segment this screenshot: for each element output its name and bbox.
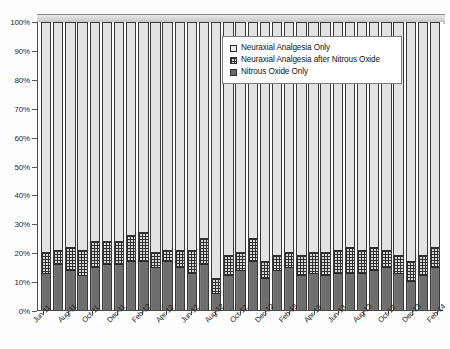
bar-segment bbox=[357, 250, 367, 273]
bar-segment bbox=[65, 247, 75, 270]
y-tick-label: 0% bbox=[19, 307, 30, 316]
legend-swatch-icon bbox=[230, 45, 237, 52]
bar-segment bbox=[175, 267, 185, 310]
legend-item[interactable]: Neuraxial Analgesia Only bbox=[230, 44, 395, 52]
bar-segment bbox=[175, 250, 185, 267]
bar-column[interactable] bbox=[211, 22, 221, 310]
bar-segment bbox=[272, 255, 282, 269]
bar-segment bbox=[223, 255, 233, 275]
bar-segment bbox=[320, 252, 330, 275]
y-tick-label: 70% bbox=[15, 104, 30, 113]
bar-segment bbox=[65, 22, 75, 247]
bar-segment bbox=[430, 22, 440, 247]
bar-segment bbox=[393, 273, 403, 310]
bar-segment bbox=[296, 275, 306, 310]
bar-column[interactable] bbox=[406, 22, 416, 310]
bar-segment bbox=[406, 261, 416, 281]
bar-column[interactable] bbox=[65, 22, 75, 310]
bar-segment bbox=[199, 264, 209, 310]
bar-segment bbox=[114, 241, 124, 264]
bar-column[interactable] bbox=[430, 22, 440, 310]
bar-segment bbox=[150, 252, 160, 266]
y-tick-label: 80% bbox=[15, 75, 30, 84]
bar-segment bbox=[333, 250, 343, 273]
bar-segment bbox=[77, 22, 87, 250]
bar-segment bbox=[53, 250, 63, 264]
bar-column[interactable] bbox=[126, 22, 136, 310]
bar-segment bbox=[138, 232, 148, 261]
bar-segment bbox=[199, 22, 209, 238]
bar-segment bbox=[260, 261, 270, 278]
bar-segment bbox=[138, 22, 148, 232]
bar-segment bbox=[150, 267, 160, 310]
bar-segment bbox=[418, 255, 428, 275]
bar-segment bbox=[126, 261, 136, 310]
bar-segment bbox=[418, 22, 428, 255]
legend-swatch-icon bbox=[230, 57, 237, 64]
bar-column[interactable] bbox=[77, 22, 87, 310]
bar-segment bbox=[393, 255, 403, 272]
bar-segment bbox=[41, 22, 51, 252]
bar-column[interactable] bbox=[114, 22, 124, 310]
bar-segment bbox=[320, 275, 330, 310]
bar-segment bbox=[114, 22, 124, 241]
y-tick-label: 40% bbox=[15, 191, 30, 200]
y-axis: 0%10%20%30%40%50%60%70%80%90%100% bbox=[0, 0, 37, 349]
bar-segment bbox=[369, 247, 379, 270]
bar-segment bbox=[345, 273, 355, 310]
legend-swatch-icon bbox=[230, 69, 237, 76]
bar-segment bbox=[162, 22, 172, 250]
bar-segment bbox=[77, 250, 87, 276]
bar-segment bbox=[248, 238, 258, 261]
bar-segment bbox=[430, 247, 440, 267]
bar-segment bbox=[175, 22, 185, 250]
bar-column[interactable] bbox=[199, 22, 209, 310]
bar-column[interactable] bbox=[150, 22, 160, 310]
bar-segment bbox=[150, 22, 160, 252]
bar-column[interactable] bbox=[162, 22, 172, 310]
bar-segment bbox=[308, 252, 318, 272]
legend-item[interactable]: Nitrous Oxide Only bbox=[230, 68, 395, 76]
bar-column[interactable] bbox=[53, 22, 63, 310]
bar-segment bbox=[199, 238, 209, 264]
bar-segment bbox=[77, 275, 87, 310]
bar-column[interactable] bbox=[102, 22, 112, 310]
stacked-bar-chart: 0%10%20%30%40%50%60%70%80%90%100% Jun-11… bbox=[0, 0, 450, 349]
bar-segment bbox=[369, 270, 379, 310]
bar-segment bbox=[381, 250, 391, 267]
y-tick-label: 90% bbox=[15, 46, 30, 55]
x-axis: Jun-11Aug-11Oct-11Dec-11Feb-12Apr-12Jun-… bbox=[37, 311, 443, 349]
bar-segment bbox=[235, 252, 245, 269]
bar-column[interactable] bbox=[418, 22, 428, 310]
bar-column[interactable] bbox=[138, 22, 148, 310]
y-tick-label: 50% bbox=[15, 162, 30, 171]
bar-segment bbox=[41, 252, 51, 272]
chart-legend: Neuraxial Analgesia OnlyNeuraxial Analge… bbox=[222, 36, 402, 84]
bar-segment bbox=[53, 264, 63, 310]
bar-segment bbox=[102, 241, 112, 264]
bar-column[interactable] bbox=[90, 22, 100, 310]
bar-segment bbox=[284, 252, 294, 266]
bar-segment bbox=[102, 22, 112, 241]
bar-segment bbox=[211, 22, 221, 278]
bar-column[interactable] bbox=[175, 22, 185, 310]
bar-segment bbox=[53, 22, 63, 250]
bar-segment bbox=[90, 241, 100, 267]
y-tick-label: 20% bbox=[15, 249, 30, 258]
bar-segment bbox=[162, 250, 172, 262]
bar-segment bbox=[187, 250, 197, 273]
bar-segment bbox=[248, 261, 258, 310]
y-tick-label: 10% bbox=[15, 278, 30, 287]
bar-segment bbox=[126, 235, 136, 261]
bar-column[interactable] bbox=[41, 22, 51, 310]
y-tick-label: 60% bbox=[15, 133, 30, 142]
legend-label: Neuraxial Analgesia Only bbox=[241, 44, 330, 52]
bar-segment bbox=[223, 275, 233, 310]
y-tick-label: 100% bbox=[10, 18, 30, 27]
bar-segment bbox=[272, 270, 282, 310]
bar-column[interactable] bbox=[187, 22, 197, 310]
bar-segment bbox=[406, 22, 416, 261]
y-tick-label: 30% bbox=[15, 220, 30, 229]
bar-segment bbox=[345, 247, 355, 273]
legend-item[interactable]: Neuraxial Analgesia after Nitrous Oxide bbox=[230, 56, 395, 64]
